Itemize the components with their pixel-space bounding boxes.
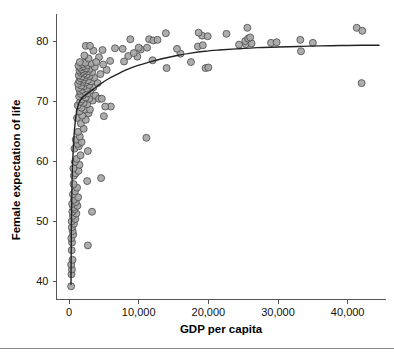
y-tick-label: 80 <box>36 35 48 47</box>
data-point <box>174 45 181 52</box>
data-point <box>77 152 84 159</box>
data-point <box>76 59 83 66</box>
x-tick-label: 30,000 <box>261 306 295 318</box>
data-point <box>298 48 305 55</box>
data-point <box>86 42 93 49</box>
data-point <box>247 34 254 41</box>
data-point <box>112 45 119 52</box>
data-point <box>100 113 107 120</box>
data-point <box>144 44 151 51</box>
x-axis-tick-labels: 010,00020,00030,00040,000 <box>66 306 365 318</box>
data-point <box>236 41 243 48</box>
x-tick-label: 0 <box>66 306 72 318</box>
data-point <box>244 24 251 31</box>
x-tick-label: 40,000 <box>331 306 365 318</box>
y-axis-title: Female expectation of life <box>10 100 22 241</box>
x-tick-label: 10,000 <box>122 306 156 318</box>
data-point <box>100 61 107 68</box>
data-point <box>135 44 142 51</box>
data-point <box>69 256 76 263</box>
data-point <box>154 36 161 43</box>
y-tick-label: 40 <box>36 275 48 287</box>
data-point <box>297 36 304 43</box>
x-tick-label: 20,000 <box>192 306 226 318</box>
y-tick-label: 70 <box>36 95 48 107</box>
data-point <box>204 33 211 40</box>
data-point <box>97 71 104 78</box>
data-point <box>143 134 150 141</box>
data-point <box>84 178 91 185</box>
data-point <box>107 57 114 64</box>
data-point <box>358 80 365 87</box>
y-axis-tick-labels: 4050607080 <box>36 35 48 287</box>
data-point <box>187 59 194 66</box>
plot-area-background <box>56 14 386 299</box>
data-point <box>98 175 105 182</box>
data-point <box>93 59 100 66</box>
data-point <box>359 27 366 34</box>
x-axis-title: GDP per capita <box>180 323 263 335</box>
y-axis-ticks <box>53 41 57 281</box>
data-point <box>195 29 202 36</box>
y-tick-label: 60 <box>36 155 48 167</box>
x-axis-ticks <box>69 300 348 304</box>
data-point <box>223 30 230 37</box>
data-point <box>99 47 106 54</box>
data-point <box>102 103 109 110</box>
data-point <box>273 39 280 46</box>
y-tick-label: 50 <box>36 215 48 227</box>
data-point <box>127 36 134 43</box>
data-point <box>163 65 170 72</box>
data-point <box>205 64 212 71</box>
data-point <box>81 52 88 59</box>
data-point <box>98 95 105 102</box>
chart-canvas: 4050607080 010,00020,00030,00040,000 GDP… <box>0 0 394 357</box>
data-point <box>119 45 126 52</box>
scatter-plot-figure: 4050607080 010,00020,00030,00040,000 GDP… <box>0 0 394 357</box>
data-point <box>199 42 206 49</box>
data-point <box>84 148 91 155</box>
data-point <box>162 30 169 37</box>
data-point <box>89 208 96 215</box>
data-point <box>84 242 91 249</box>
data-point <box>70 181 77 188</box>
